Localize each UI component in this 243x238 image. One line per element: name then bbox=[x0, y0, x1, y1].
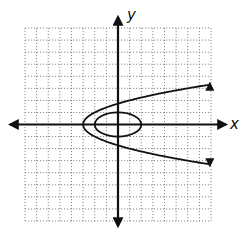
coordinate-graph: y x bbox=[0, 0, 243, 238]
axes bbox=[10, 17, 226, 226]
x-axis-label: x bbox=[229, 115, 239, 133]
y-axis-label: y bbox=[126, 6, 137, 24]
